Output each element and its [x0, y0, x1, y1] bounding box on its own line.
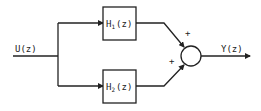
h2-to-summer-line [136, 65, 184, 86]
block-h1-label: H1(z) [106, 19, 132, 30]
output-label: Y(z) [221, 44, 243, 54]
h1-to-summer-line [136, 23, 184, 47]
summing-junction [181, 46, 201, 66]
plus-sign-lower: + [169, 56, 175, 66]
input-label: U(z) [15, 44, 37, 54]
block-h2-label: H2(z) [106, 82, 132, 93]
block-diagram: U(z) H1(z) H2(z) + + Y(z) [0, 0, 261, 111]
plus-sign-upper: + [185, 28, 191, 38]
